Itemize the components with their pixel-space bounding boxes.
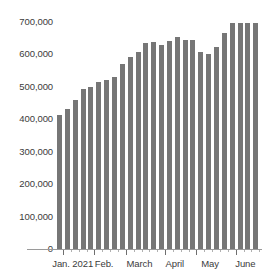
y-tick-label: 500,000 [0, 82, 53, 92]
x-tick-label: May [201, 258, 219, 269]
bar [245, 23, 250, 249]
x-tick-major [126, 250, 127, 255]
x-tick-minor [181, 250, 182, 252]
bar [238, 23, 243, 249]
x-tick-minor [71, 250, 72, 252]
x-tick-minor [251, 250, 252, 252]
x-tick-minor [110, 250, 111, 252]
bar [88, 87, 93, 249]
y-tick-label: 100,000 [0, 212, 53, 222]
x-tick-label: April [165, 258, 184, 269]
bar-chart-figure: 700,000600,000500,000400,000300,000200,0… [0, 0, 269, 279]
bar [143, 43, 148, 249]
x-tick-label: Jan. 2021 [52, 258, 93, 269]
bar [253, 23, 258, 249]
x-tick-minor [189, 250, 190, 252]
x-tick-major [63, 250, 64, 255]
x-tick-minor [220, 250, 221, 252]
bar [96, 82, 101, 249]
bar [167, 41, 172, 249]
x-tick-label: March [126, 258, 152, 269]
plot-area [57, 14, 262, 249]
bar [81, 89, 86, 249]
bar [57, 115, 62, 249]
bar [198, 52, 203, 249]
bar [175, 37, 180, 249]
x-axis-labels: Jan. 2021Feb.MarchAprilMayJune [0, 258, 269, 274]
x-tick-major [196, 250, 197, 255]
x-tick-minor [149, 250, 150, 252]
y-tick-label: 300,000 [0, 147, 53, 157]
x-tick-minor [212, 250, 213, 252]
x-tick-major [94, 250, 95, 255]
x-tick-minor [244, 250, 245, 252]
x-tick-minor [173, 250, 174, 252]
x-tick-major [236, 250, 237, 255]
y-tick-label: 600,000 [0, 49, 53, 59]
bar [151, 42, 156, 249]
x-tick-minor [142, 250, 143, 252]
bar [159, 45, 164, 249]
bar [206, 54, 211, 249]
bar [222, 33, 227, 249]
x-tick-minor [134, 250, 135, 252]
x-tick-minor [157, 250, 158, 252]
bar [136, 52, 141, 249]
x-tick-minor [228, 250, 229, 252]
x-tick-minor [259, 250, 260, 252]
y-axis: 700,000600,000500,000400,000300,000200,0… [0, 0, 53, 279]
x-tick-minor [102, 250, 103, 252]
y-tick-label: 700,000 [0, 17, 53, 27]
bar [73, 100, 78, 249]
x-tick-label: Feb. [95, 258, 114, 269]
y-tick-label: 200,000 [0, 179, 53, 189]
x-tick-minor [118, 250, 119, 252]
bars-layer [57, 22, 262, 249]
bar [112, 77, 117, 249]
y-tick-label: 400,000 [0, 114, 53, 124]
bar [183, 40, 188, 249]
bar [190, 40, 195, 249]
x-tick-minor [204, 250, 205, 252]
x-axis-ticks [57, 250, 262, 256]
bar [128, 57, 133, 249]
x-tick-major [165, 250, 166, 255]
x-tick-minor [87, 250, 88, 252]
bar [230, 23, 235, 249]
x-tick-minor [79, 250, 80, 252]
x-tick-label: June [235, 258, 255, 269]
bar [104, 80, 109, 249]
bar [214, 47, 219, 249]
bar [120, 64, 125, 249]
bar [65, 109, 70, 249]
